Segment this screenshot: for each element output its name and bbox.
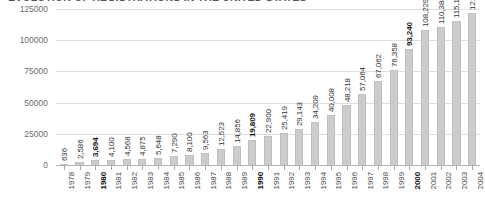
bar-value-label: 4,100 [106, 137, 115, 157]
bar-value-label: 2,586 [75, 139, 84, 159]
x-tick [441, 165, 442, 170]
x-tick-label: 1996 [350, 172, 359, 189]
x-tick-label: 1998 [381, 172, 390, 189]
y-tick-label: 75000 [24, 66, 48, 76]
x-tick-label: 2000 [413, 172, 422, 189]
x-tick-label: 1991 [272, 172, 281, 189]
bar-value-label: 57,064 [358, 67, 367, 91]
bar[interactable] [185, 155, 193, 165]
bar-value-label: 3,694 [91, 138, 100, 158]
bar[interactable] [154, 158, 162, 165]
x-tick [472, 165, 473, 170]
bar-slot: 110,388 [437, 9, 445, 165]
x-tick [425, 165, 426, 170]
x-tick [252, 165, 253, 170]
bar[interactable] [264, 136, 272, 165]
bar[interactable] [327, 115, 335, 165]
bar[interactable] [390, 70, 398, 165]
x-tick [95, 165, 96, 170]
x-tick [111, 165, 112, 170]
x-tick-label: 2004 [476, 172, 485, 189]
x-tick-label: 1999 [397, 172, 406, 189]
x-tick-label: 1987 [209, 172, 218, 189]
bar[interactable] [248, 140, 256, 165]
x-tick [174, 165, 175, 170]
bar[interactable] [311, 122, 319, 165]
bar-value-label: 34,209 [311, 95, 320, 119]
y-tick-label: 125000 [20, 4, 48, 14]
x-tick-label: 1982 [130, 172, 139, 189]
x-tick-label: 1990 [256, 172, 265, 189]
bar-slot: 4,568 [123, 9, 131, 165]
bar-slot: 5,648 [154, 9, 162, 165]
bar-value-label: 7,290 [169, 133, 178, 153]
y-tick-label: 50000 [24, 98, 48, 108]
bars-container: 6362,5863,6944,1004,5684,8755,6487,2908,… [56, 9, 480, 165]
x-tick [205, 165, 206, 170]
bar-value-label: 12,523 [216, 123, 225, 147]
x-tick-label: 1986 [193, 172, 202, 189]
bar[interactable] [421, 30, 429, 165]
bar-slot: 29,143 [295, 9, 303, 165]
bar[interactable] [280, 133, 288, 165]
bar-value-label: 25,419 [279, 106, 288, 130]
bar-value-label: 14,856 [232, 120, 241, 144]
bar-slot: 19,809 [248, 9, 256, 165]
x-tick [142, 165, 143, 170]
x-tick [362, 165, 363, 170]
bar[interactable] [201, 153, 209, 165]
x-tick [299, 165, 300, 170]
bar[interactable] [405, 49, 413, 165]
x-tick [456, 165, 457, 170]
bar-value-label: 108,229 [421, 0, 430, 27]
plot-area: 6362,5863,6944,1004,5684,8755,6487,2908,… [56, 9, 480, 165]
x-tick [284, 165, 285, 170]
bar-slot: 636 [60, 9, 68, 165]
bar-value-label: 636 [59, 148, 68, 161]
x-tick-label: 2001 [429, 172, 438, 189]
bar-slot: 7,290 [170, 9, 178, 165]
x-tick [189, 165, 190, 170]
bar-slot: 34,209 [311, 9, 319, 165]
bar-value-label: 121,746 [468, 0, 477, 10]
x-tick-label: 1980 [99, 172, 108, 189]
bar-slot: 40,008 [327, 9, 335, 165]
bar-value-label: 76,358 [389, 43, 398, 67]
bar-slot: 93,240 [405, 9, 413, 165]
bar-slot: 121,746 [468, 9, 476, 165]
bar[interactable] [342, 105, 350, 165]
x-tick-label: 1989 [240, 172, 249, 189]
bar-value-label: 115,178 [452, 0, 461, 18]
bar-slot: 76,358 [390, 9, 398, 165]
bar[interactable] [468, 13, 476, 165]
x-tick-label: 1978 [67, 172, 76, 189]
bar-value-label: 40,008 [326, 88, 335, 112]
bar[interactable] [437, 27, 445, 165]
bar[interactable] [374, 81, 382, 165]
x-tick [315, 165, 316, 170]
bar[interactable] [233, 146, 241, 165]
bar-slot: 25,419 [280, 9, 288, 165]
bar-value-label: 67,062 [373, 54, 382, 78]
bar-value-label: 8,100 [185, 132, 194, 152]
bar[interactable] [295, 129, 303, 165]
bar-value-label: 22,900 [263, 110, 272, 134]
x-axis: 1978197919801981198219831984198519861987… [56, 165, 480, 214]
x-tick [64, 165, 65, 170]
bar-value-label: 19,809 [248, 113, 257, 137]
x-tick [378, 165, 379, 170]
y-tick-label: 100000 [20, 35, 48, 45]
x-tick-label: 1981 [114, 172, 123, 189]
bar[interactable] [170, 156, 178, 165]
bar-value-label: 5,648 [154, 135, 163, 155]
bar[interactable] [217, 149, 225, 165]
x-tick [331, 165, 332, 170]
bar[interactable] [358, 94, 366, 165]
bar-slot: 14,856 [233, 9, 241, 165]
y-tick-label: 25000 [24, 129, 48, 139]
bar-slot: 4,875 [138, 9, 146, 165]
bar[interactable] [452, 21, 460, 165]
bar-value-label: 29,143 [295, 102, 304, 126]
x-tick [394, 165, 395, 170]
bar-slot: 48,218 [342, 9, 350, 165]
